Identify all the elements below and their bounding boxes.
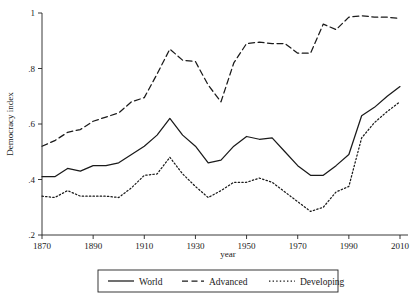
x-tick-label: 1890 — [84, 241, 103, 251]
democracy-index-chart: .2.4.6.81 187018901910193019501970199020… — [0, 0, 416, 298]
x-tick-label: 1910 — [135, 241, 154, 251]
y-axis-ticks: .2.4.6.81 — [28, 8, 42, 240]
legend-label-developing: Developing — [300, 277, 345, 287]
y-tick-label: 1 — [31, 8, 36, 18]
x-tick-label: 1990 — [340, 241, 359, 251]
chart-svg: .2.4.6.81 187018901910193019501970199020… — [0, 0, 416, 298]
legend-label-advanced: Advanced — [209, 277, 248, 287]
y-tick-label: .2 — [28, 230, 35, 240]
x-tick-label: 1870 — [33, 241, 52, 251]
x-tick-label: 2010 — [391, 241, 410, 251]
series-group — [42, 16, 400, 212]
x-tick-label: 1930 — [186, 241, 205, 251]
y-tick-label: .4 — [28, 175, 35, 185]
y-tick-label: .6 — [28, 119, 35, 129]
legend-label-world: World — [139, 277, 163, 287]
series-line-advanced — [42, 16, 400, 146]
y-axis-title: Democracy index — [5, 92, 15, 156]
x-axis-title: year — [220, 249, 236, 259]
x-tick-label: 1970 — [289, 241, 308, 251]
x-tick-label: 1950 — [238, 241, 257, 251]
chart-legend: WorldAdvancedDeveloping — [98, 270, 345, 292]
y-tick-label: .8 — [28, 64, 35, 74]
